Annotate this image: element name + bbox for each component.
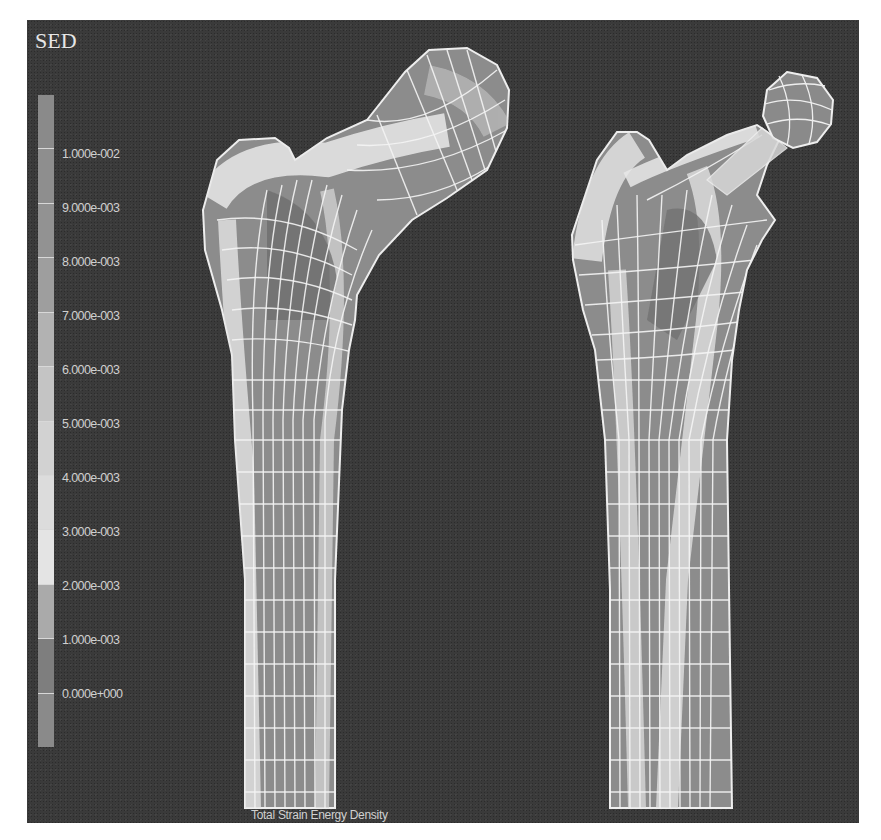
implanted-femur-mesh bbox=[27, 20, 859, 823]
prosthesis-head bbox=[707, 72, 833, 195]
figure-caption: Total Strain Energy Density bbox=[251, 808, 551, 822]
fea-result-viewport: SED 1.000e-0029.000e-0038.000e-0037.000e… bbox=[27, 20, 859, 823]
